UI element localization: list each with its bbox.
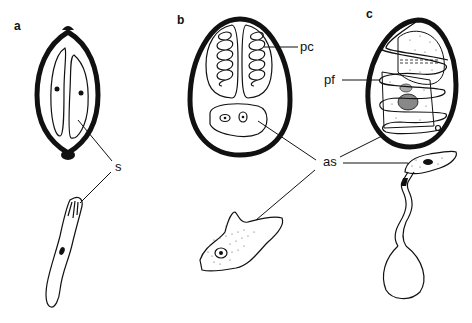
- spore-b: [190, 19, 290, 155]
- germinating-sporoplasm-c: [383, 151, 456, 298]
- spore-c: [368, 20, 456, 147]
- label-pf: pf: [324, 72, 335, 87]
- leader-as-c: [340, 135, 384, 157]
- panel-label-b: b: [177, 13, 184, 27]
- sporozoite-a: [46, 197, 82, 307]
- panel-label-a: a: [14, 19, 21, 33]
- label-pc: pc: [300, 39, 314, 54]
- leader-s-lower: [80, 172, 111, 203]
- amoeboid-sporoplasm-b: [200, 212, 283, 271]
- label-as: as: [323, 154, 337, 169]
- label-s: s: [115, 159, 122, 174]
- spore-a: [37, 26, 98, 160]
- figure-canvas: a b c s pc: [0, 0, 472, 323]
- panel-label-c: c: [366, 7, 373, 21]
- leader-as-amoeba: [256, 170, 315, 220]
